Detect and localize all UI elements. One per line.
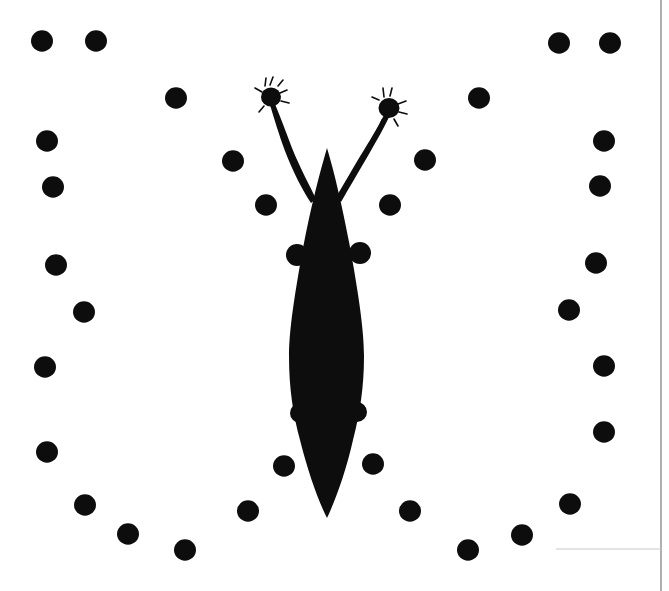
ring-dot — [36, 130, 58, 151]
ring-dot — [559, 493, 581, 514]
ring-dot — [73, 301, 95, 322]
ring-dot — [414, 149, 436, 170]
ring-dot — [399, 500, 421, 521]
ring-dot — [237, 500, 259, 521]
ring-dot — [599, 32, 621, 53]
ring-dot — [31, 30, 53, 51]
ring-dot — [548, 32, 570, 53]
ring-dot — [593, 355, 615, 376]
figure-canvas — [0, 0, 669, 591]
ring-dot — [222, 150, 244, 171]
ring-dot — [165, 87, 187, 108]
ring-dot — [593, 130, 615, 151]
ring-dot — [593, 421, 615, 442]
ring-dot — [36, 441, 58, 462]
ring-dot — [589, 175, 611, 196]
butterfly-figure — [0, 0, 669, 591]
ring-dot — [585, 252, 607, 273]
ring-dot — [45, 254, 67, 275]
ring-dot — [511, 524, 533, 545]
ring-dot — [42, 176, 64, 197]
ring-dot — [255, 194, 277, 215]
ring-dot — [174, 539, 196, 560]
ring-dot — [117, 523, 139, 544]
ring-dot — [379, 194, 401, 215]
ring-dot — [34, 356, 56, 377]
ring-dot — [273, 455, 295, 476]
ring-dot — [468, 87, 490, 108]
ring-dot — [85, 30, 107, 51]
ring-dot — [74, 494, 96, 515]
ring-dot — [457, 539, 479, 560]
ring-dot — [362, 453, 384, 474]
ring-dot — [558, 299, 580, 320]
